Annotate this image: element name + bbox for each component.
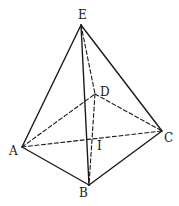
point-label-b: B	[79, 186, 88, 200]
point-label-i: I	[97, 139, 102, 153]
edge-ea	[22, 25, 81, 147]
point-label-a: A	[8, 144, 18, 158]
edge-ad	[22, 94, 95, 147]
point-label-d: D	[100, 85, 110, 99]
edge-ab	[22, 147, 89, 185]
edge-dc	[95, 94, 162, 131]
pyramid-diagram: EDACBI	[0, 0, 179, 206]
edge-eb	[81, 25, 89, 185]
point-label-c: C	[164, 131, 173, 145]
point-label-e: E	[78, 8, 87, 22]
edges-group	[22, 25, 162, 185]
